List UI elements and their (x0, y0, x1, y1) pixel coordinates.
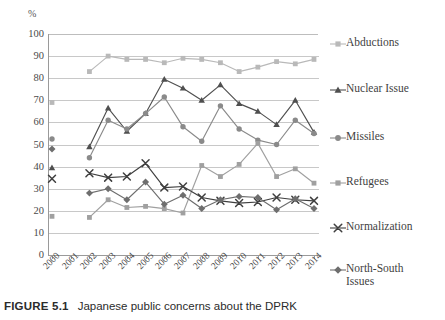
caption-text: Japanese public concerns about the DPRK (78, 300, 297, 312)
chart-area: % 1009080706050403020100 200020012002200… (0, 0, 330, 292)
square-marker-icon (330, 176, 346, 190)
y-tick-label-10: 10 (20, 228, 44, 238)
legend-item-normalization[interactable]: Normalization (330, 220, 412, 235)
diamond-marker-icon (330, 263, 346, 277)
y-tick-label-80: 80 (20, 73, 44, 83)
legend-item-refugees[interactable]: Refugees (330, 175, 389, 190)
legend-label: Normalization (346, 220, 412, 233)
series-normalization (49, 160, 318, 207)
legend-label: North-South Issues (346, 262, 404, 287)
x-axis-labels: 2000200120022003200420052006200720082009… (0, 258, 340, 292)
chart-legend: AbductionsNuclear IssueMissilesRefugeesN… (330, 30, 445, 265)
legend-item-abductions[interactable]: Abductions (330, 36, 399, 51)
y-axis-unit-label: % (28, 8, 36, 19)
series-abductions (50, 54, 317, 105)
legend-label: Abductions (346, 36, 399, 49)
triangle-marker-icon (330, 83, 346, 97)
cross-marker-icon (330, 221, 346, 235)
y-tick-label-20: 20 (20, 206, 44, 216)
figure-container: % 1009080706050403020100 200020012002200… (0, 0, 445, 320)
legend-label: Missiles (346, 130, 384, 143)
y-tick-label-70: 70 (20, 95, 44, 105)
series-plot (48, 34, 318, 255)
figure-caption: FIGURE 5.1Japanese public concerns about… (4, 300, 434, 312)
legend-item-north-south-issues[interactable]: North-South Issues (330, 262, 404, 287)
y-tick-label-40: 40 (20, 162, 44, 172)
circle-marker-icon (330, 131, 346, 145)
caption-label: FIGURE 5.1 (4, 300, 69, 312)
legend-label: Nuclear Issue (346, 82, 409, 95)
y-axis-labels: 1009080706050403020100 (18, 34, 44, 255)
y-tick-label-100: 100 (20, 29, 44, 39)
y-tick-label-50: 50 (20, 140, 44, 150)
legend-item-nuclear-issue[interactable]: Nuclear Issue (330, 82, 409, 97)
series-missiles (49, 94, 316, 160)
legend-item-missiles[interactable]: Missiles (330, 130, 384, 145)
y-tick-label-60: 60 (20, 117, 44, 127)
y-tick-label-90: 90 (20, 51, 44, 61)
legend-label: Refugees (346, 175, 389, 188)
square-marker-icon (330, 37, 346, 51)
y-tick-label-30: 30 (20, 184, 44, 194)
